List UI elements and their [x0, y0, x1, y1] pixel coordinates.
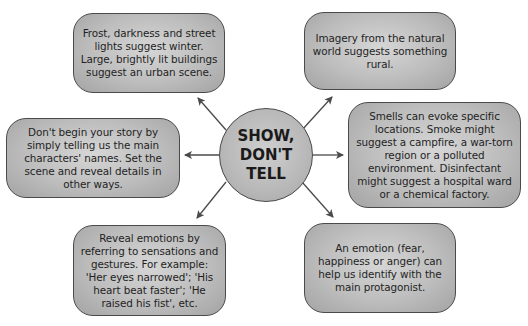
center-label-line3: TELL [237, 165, 294, 184]
center-label-line1: SHOW, [237, 127, 294, 146]
box-top-left-text: Frost, darkness and street lights sugges… [80, 27, 218, 79]
center-label-line2: DON'T [237, 146, 294, 165]
box-top-left: Frost, darkness and street lights sugges… [73, 13, 225, 93]
arrow-to-top-right [302, 97, 332, 130]
box-bottom-left: Reveal emotions by referring to sensatio… [73, 225, 226, 316]
box-bottom-right-text: An emotion (fear, happiness or anger) ca… [311, 242, 449, 294]
box-bottom-right: An emotion (fear, happiness or anger) ca… [304, 223, 456, 313]
arrow-to-bottom-left [197, 182, 226, 218]
box-top-right-text: Imagery from the natural world suggests … [311, 32, 449, 71]
center-circle: SHOW, DON'T TELL [219, 108, 313, 202]
arrow-to-top-left [198, 98, 226, 130]
box-right-text: Smells can evoke specific locations. Smo… [355, 110, 514, 201]
box-top-right: Imagery from the natural world suggests … [304, 12, 456, 90]
arrow-to-bottom-right [302, 182, 333, 217]
box-left-text: Don't begin your story by simply telling… [13, 126, 173, 191]
box-bottom-left-text: Reveal emotions by referring to sensatio… [80, 232, 219, 310]
box-right: Smells can evoke specific locations. Smo… [348, 102, 521, 208]
box-left: Don't begin your story by simply telling… [6, 118, 180, 198]
